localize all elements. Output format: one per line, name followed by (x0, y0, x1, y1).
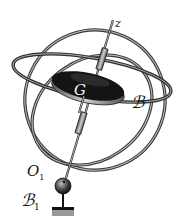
pivot-ball (55, 178, 71, 194)
gyroscope-diagram (0, 0, 177, 219)
rotor-body-label: ℬ (131, 94, 144, 111)
base-support (52, 193, 74, 216)
pivot-label: O1 (27, 164, 44, 182)
center-of-mass-label: G (74, 83, 86, 98)
axis-label-z: z (115, 18, 121, 29)
base-body-label: ℬ1 (21, 192, 40, 212)
